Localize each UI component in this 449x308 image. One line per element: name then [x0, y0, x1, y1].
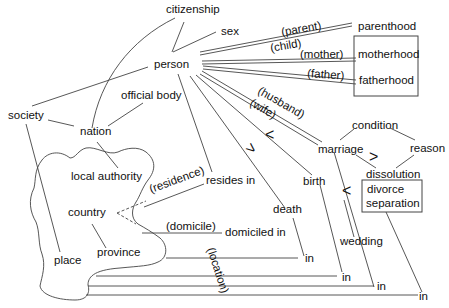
node-citizenship: citizenship: [166, 3, 220, 15]
diagram-svg: citizenship sex person official body soc…: [0, 0, 449, 308]
edge-society-place: [26, 124, 60, 252]
node-dissolution: dissolution: [366, 168, 420, 180]
node-condition: condition: [352, 119, 398, 131]
node-separation: separation: [366, 197, 420, 209]
label-location: (location): [205, 246, 231, 295]
edge-citizenship-nation: [92, 18, 175, 128]
node-domiciled-in: domiciled in: [225, 226, 286, 238]
node-resides-in: resides in: [206, 174, 255, 186]
node-place: place: [54, 254, 82, 266]
label-mother: (mother): [300, 48, 344, 60]
node-society: society: [8, 109, 44, 121]
edge-divorce-in: [386, 212, 422, 292]
edge-officialbody-nation: [108, 103, 143, 126]
order-mark-lt-wedding: <: [342, 182, 351, 199]
concept-diagram: citizenship sex person official body soc…: [0, 0, 449, 308]
edge-wedding-marriage: [344, 200, 354, 237]
node-motherhood: motherhood: [358, 48, 419, 60]
node-in-3: in: [377, 280, 386, 292]
edge-country-residence-dashed: [117, 201, 146, 224]
parenthood-group-box: [354, 36, 418, 96]
node-province: province: [97, 246, 140, 258]
node-parenthood: parenthood: [358, 20, 416, 32]
edge-society-nation: [48, 120, 74, 126]
edge-birth-in: [320, 185, 342, 272]
node-death: death: [273, 203, 302, 215]
node-birth: birth: [303, 175, 325, 187]
node-in-1: in: [305, 252, 314, 264]
label-child: (child): [269, 37, 302, 54]
edge-country-province: [92, 224, 106, 248]
node-marriage: marriage: [318, 143, 363, 155]
label-parent: (parent): [280, 19, 322, 38]
node-local-authority: local authority: [71, 170, 142, 182]
label-residence: (residence): [148, 164, 206, 195]
node-reason: reason: [410, 142, 445, 154]
order-mark-gt-dissolution: >: [369, 148, 378, 165]
edge-nation-localauthority: [97, 142, 118, 168]
node-divorce: divorce: [367, 183, 404, 195]
node-wedding: wedding: [339, 235, 383, 247]
edge-death-in: [293, 218, 304, 256]
node-nation: nation: [80, 125, 111, 137]
label-domicile: (domicile): [166, 220, 216, 232]
edge-person-birth: [196, 75, 312, 175]
node-in-4: in: [419, 290, 428, 302]
node-official-body: official body: [121, 89, 182, 101]
order-mark-lt-birth: <: [265, 126, 274, 143]
edge-person-residesin: [178, 74, 212, 172]
edge-person-motherhood-b: [202, 61, 356, 64]
order-mark-gt-death: >: [242, 139, 260, 158]
edge-reason-dissolution: [396, 155, 414, 168]
node-person: person: [154, 58, 189, 70]
node-sex: sex: [221, 25, 239, 37]
node-in-2: in: [342, 271, 351, 283]
edge-person-sex: [173, 32, 216, 52]
node-fatherhood: fatherhood: [359, 74, 414, 86]
node-country: country: [68, 206, 106, 218]
